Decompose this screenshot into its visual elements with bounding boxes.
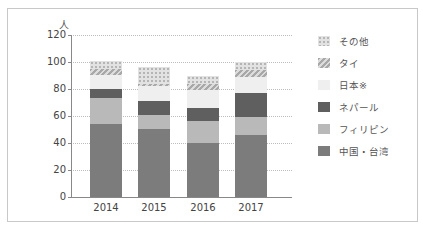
bar-2015 <box>138 67 170 197</box>
legend-item-philippines: フィリピン <box>318 118 389 140</box>
x-tick-label: 2017 <box>231 202 271 213</box>
bar-segment <box>187 76 219 84</box>
bar-segment <box>138 115 170 130</box>
bar-segment <box>187 90 219 108</box>
swatch-dotted-icon <box>318 36 330 46</box>
y-tick-label: 0 <box>30 192 66 202</box>
swatch-lightgray-icon <box>318 124 330 134</box>
y-tick-label: 120 <box>30 30 66 40</box>
bar-segment <box>235 117 267 135</box>
bar-2014 <box>90 61 122 197</box>
bar-segment <box>90 61 122 69</box>
legend: その他 タイ 日本※ ネパール フィリピン 中国・台湾 <box>318 30 389 162</box>
bar-segment <box>235 70 267 77</box>
legend-label: 日本※ <box>339 78 367 92</box>
legend-label: フィリピン <box>339 122 389 136</box>
legend-item-nepal: ネパール <box>318 96 389 118</box>
bar-2017 <box>235 62 267 197</box>
x-tick-label: 2016 <box>183 202 223 213</box>
swatch-gray-icon <box>318 146 330 156</box>
bar-segment <box>187 121 219 143</box>
bar-segment <box>235 93 267 117</box>
y-tick-label: 40 <box>30 138 66 148</box>
legend-item-thai: タイ <box>318 52 389 74</box>
x-axis-line <box>71 197 292 198</box>
legend-label: 中国・台湾 <box>339 144 389 158</box>
bar-segment <box>138 86 170 101</box>
legend-item-japan: 日本※ <box>318 74 389 96</box>
legend-item-others: その他 <box>318 30 389 52</box>
bar-segment <box>90 69 122 76</box>
bar-segment <box>90 89 122 98</box>
y-tick-label: 20 <box>30 165 66 175</box>
bar-segment <box>138 67 170 83</box>
bar-segment <box>90 124 122 197</box>
legend-label: その他 <box>339 34 369 48</box>
swatch-striped-icon <box>318 58 330 68</box>
y-tick-label: 60 <box>30 111 66 121</box>
bar-segment <box>187 143 219 197</box>
legend-item-china-taiwan: 中国・台湾 <box>318 140 389 162</box>
bar-2016 <box>187 76 219 198</box>
bar-segment <box>187 108 219 122</box>
swatch-dark-icon <box>318 102 330 112</box>
bar-segment <box>90 98 122 124</box>
x-tick-label: 2015 <box>134 202 174 213</box>
bar-segment <box>90 75 122 89</box>
bar-segment <box>138 129 170 197</box>
y-tick-label: 80 <box>30 84 66 94</box>
bar-segment <box>235 62 267 70</box>
legend-label: ネパール <box>339 100 379 114</box>
x-tick-label: 2014 <box>86 202 126 213</box>
bar-segment <box>138 84 170 87</box>
legend-label: タイ <box>339 56 359 70</box>
bar-segment <box>235 135 267 197</box>
y-tick-label: 100 <box>30 57 66 67</box>
y-axis-line <box>71 35 72 197</box>
gridline <box>71 35 292 36</box>
bar-segment <box>235 77 267 93</box>
swatch-light-icon <box>318 80 330 90</box>
bar-segment <box>187 84 219 91</box>
bar-segment <box>138 101 170 115</box>
